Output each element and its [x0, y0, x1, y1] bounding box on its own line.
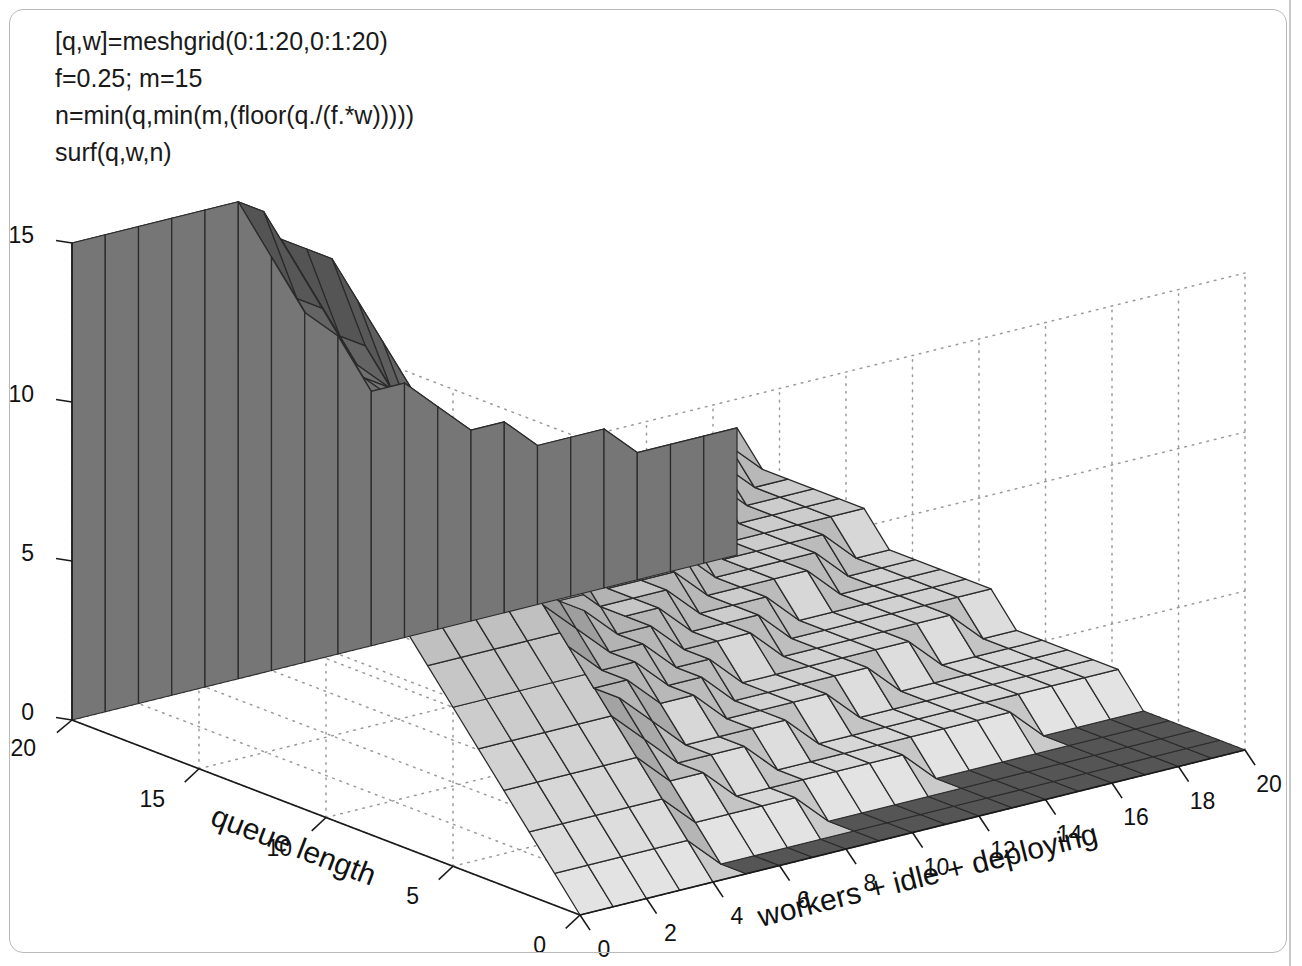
x-tick-16-mark	[1112, 783, 1122, 798]
z-tick-0: 0	[21, 699, 34, 725]
x-tick-20-mark	[1245, 750, 1255, 765]
annotation-text-group: [q,w]=meshgrid(0:1:20,0:1:20) f=0.25; m=…	[55, 27, 414, 166]
y-tick-5-mark	[439, 866, 453, 879]
surface-skirt-front	[571, 429, 604, 596]
z-tick-10-mark	[56, 399, 72, 402]
surface-skirt-front	[238, 202, 271, 679]
annotation-line-1: [q,w]=meshgrid(0:1:20,0:1:20)	[55, 27, 388, 55]
figure-canvas: 0510152015105020181614121086420 queue le…	[0, 0, 1302, 966]
surface-skirt-front	[704, 428, 737, 563]
x-tick-18-mark	[1179, 767, 1189, 782]
surface-skirt-front	[172, 210, 205, 695]
surface-skirt-front	[205, 202, 238, 687]
annotation-line-2: f=0.25; m=15	[55, 64, 202, 92]
y-tick-20: 20	[10, 735, 36, 761]
z-tick-15: 15	[8, 222, 34, 248]
surface-skirt-front	[72, 235, 105, 720]
x-tick-6-mark	[780, 866, 790, 881]
y-axis-title: queue length	[207, 799, 381, 892]
y-tick-20-mark	[57, 720, 72, 733]
surface-plot-svg: 0510152015105020181614121086420 queue le…	[0, 0, 1302, 966]
x-tick-8-mark	[846, 849, 856, 864]
y-tick-15-mark	[185, 769, 199, 782]
z-tick-5: 5	[21, 540, 34, 566]
surface-skirt-front	[338, 336, 371, 654]
surface-skirt-front	[438, 407, 471, 630]
x-tick-0: 0	[598, 936, 611, 962]
surface-facets-group	[72, 202, 1245, 915]
y-tick-10-mark	[312, 818, 326, 831]
x-tick-0-mark	[580, 915, 590, 930]
surface-skirt-front	[371, 383, 404, 646]
annotation-line-3: n=min(q,min(m,(floor(q./(f.*w)))))	[55, 101, 414, 129]
z-tick-0-mark	[56, 717, 72, 720]
x-tick-20: 20	[1256, 771, 1282, 797]
annotation-line-4: surf(q,w,n)	[55, 138, 172, 166]
x-tick-4: 4	[731, 903, 744, 929]
surface-skirt-front	[139, 218, 172, 703]
surface-skirt-front	[105, 227, 138, 712]
z-tick-10: 10	[8, 381, 34, 407]
surface-skirt-front	[637, 444, 670, 579]
x-tick-2-mark	[647, 899, 657, 914]
surface-skirt-front	[604, 429, 637, 588]
x-tick-14-mark	[1046, 800, 1056, 815]
x-tick-4-mark	[713, 882, 723, 897]
y-tick-0: 0	[533, 932, 546, 958]
z-tick-5-mark	[56, 558, 72, 561]
surface-skirt-front	[305, 312, 338, 662]
y-tick-0-mark	[566, 915, 580, 928]
x-tick-12-mark	[979, 816, 989, 831]
surface-skirt-front	[504, 422, 537, 613]
x-tick-18: 18	[1190, 788, 1216, 814]
surface-skirt-front	[272, 257, 305, 670]
x-tick-16: 16	[1123, 804, 1149, 830]
page-right-rule	[1289, 0, 1291, 966]
surface-skirt-front	[671, 436, 704, 571]
y-tick-5: 5	[406, 883, 419, 909]
z-tick-15-mark	[56, 240, 72, 243]
surface-skirt-front	[538, 437, 571, 604]
x-tick-10-mark	[913, 833, 923, 848]
x-tick-2: 2	[664, 920, 677, 946]
y-tick-15: 15	[139, 786, 165, 812]
surface-skirt-front	[471, 422, 504, 621]
surface-skirt-front	[405, 383, 438, 637]
